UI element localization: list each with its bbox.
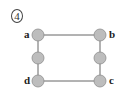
node-label-b: b	[109, 29, 115, 40]
node-left-mid	[32, 52, 44, 64]
node-label-c: c	[109, 75, 114, 86]
node-a	[32, 29, 44, 41]
nodes	[32, 29, 106, 87]
edges	[38, 35, 100, 81]
graph-diagram	[0, 0, 125, 92]
node-b	[94, 29, 106, 41]
node-right-mid	[94, 52, 106, 64]
node-label-d: d	[24, 75, 30, 86]
node-label-a: a	[24, 29, 30, 40]
node-d	[32, 75, 44, 87]
node-c	[94, 75, 106, 87]
